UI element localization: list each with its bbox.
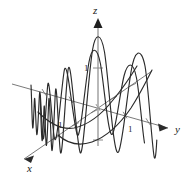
x-axis-label: x	[26, 162, 32, 174]
y-axis-tick-label-one: 1	[128, 124, 133, 134]
y-axis-arrowhead	[158, 124, 168, 132]
plot-svg: y 1 x 1	[0, 0, 195, 184]
y-axis-label: y	[174, 123, 180, 135]
axes-group: y 1 x 1	[12, 4, 180, 174]
z-axis-arrowhead	[94, 18, 103, 28]
z-axis-label: z	[92, 4, 98, 16]
figure-container: y 1 x 1	[0, 0, 195, 184]
